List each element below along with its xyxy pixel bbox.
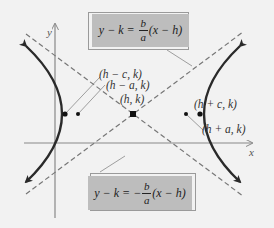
equation-lower: y − k = −ba(x − h) [88, 176, 192, 210]
vertex-left-point [76, 112, 80, 116]
x-axis-label: x [249, 146, 254, 158]
label-vertex-right: (h + a, k) [202, 124, 246, 136]
eq-upper-den: a [140, 32, 146, 43]
eq-lower-lhs: y − k = [94, 186, 130, 201]
vertex-right-point [184, 112, 188, 116]
eq-lower-den: a [144, 195, 150, 206]
eq-upper-fraction: ba [139, 18, 148, 43]
left-branch [26, 46, 62, 182]
leader-eq-upper [167, 50, 192, 66]
eq-upper-rhs: (x − h) [149, 23, 182, 38]
focus-left-point [62, 111, 67, 116]
y-axis-label: y [47, 26, 52, 38]
eq-lower-rhs: (x − h) [152, 186, 185, 201]
center-point [130, 111, 136, 117]
label-center: (h, k) [120, 94, 144, 106]
leader-eq-lower [100, 156, 125, 172]
eq-lower-sign: − [133, 186, 141, 201]
equation-upper: y − k = ba(x − h) [92, 14, 189, 47]
leader-vertex-left [78, 85, 105, 114]
eq-lower-num: b [144, 181, 150, 192]
right-branch [204, 46, 240, 182]
focus-right-point [197, 111, 202, 116]
eq-upper-lhs: y − k = [99, 23, 135, 38]
label-focus-right: (h + c, k) [194, 99, 237, 111]
eq-lower-fraction: ba [142, 181, 151, 206]
label-vertex-left: (h − a, k) [106, 80, 150, 92]
eq-upper-num: b [140, 18, 146, 29]
